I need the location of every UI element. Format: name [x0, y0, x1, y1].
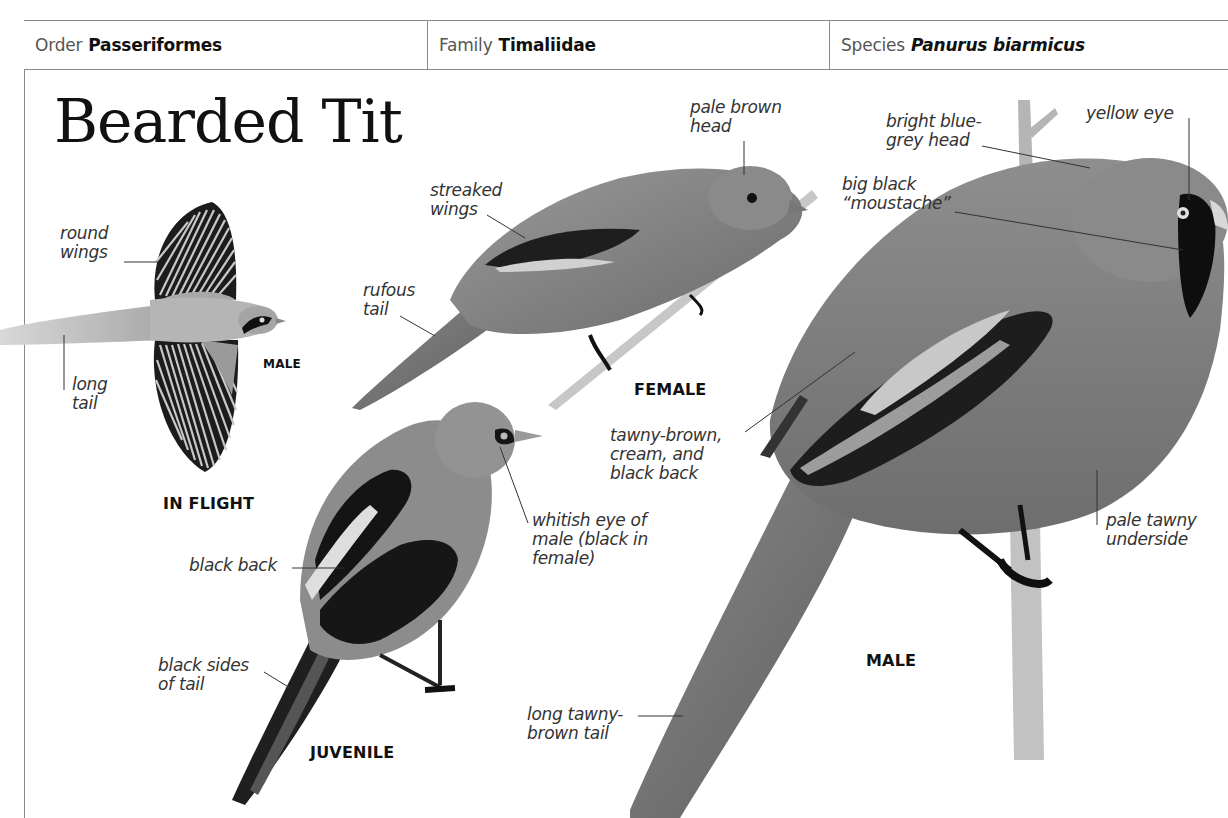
- bird-illustrations: [0, 0, 1228, 818]
- label-yellow-eye: yellow eye: [1086, 104, 1174, 123]
- black-sides-tail-leader: [264, 672, 290, 688]
- label-moustache: big black “moustache”: [842, 175, 951, 213]
- whitish-eye-leader: [500, 447, 528, 523]
- label-whitish-eye: whitish eye of male (black in female): [532, 511, 648, 568]
- label-long-tawny-brown-tail: long tawny- brown tail: [527, 705, 623, 743]
- label-streaked-wings: streaked wings: [430, 181, 502, 219]
- caption-in-flight-male: MALE: [263, 357, 301, 371]
- label-black-sides-of-tail: black sides of tail: [158, 656, 249, 694]
- rufous-tail-leader: [400, 316, 435, 336]
- label-pale-brown-head: pale brown head: [690, 98, 782, 136]
- in-flight-bird-figure: [0, 202, 286, 472]
- label-long-tail: long tail: [72, 375, 108, 413]
- label-rufous-tail: rufous tail: [363, 281, 415, 319]
- caption-in-flight: IN FLIGHT: [163, 494, 254, 513]
- female-bird-figure: [352, 166, 818, 410]
- label-back: tawny-brown, cream, and black back: [610, 426, 722, 483]
- caption-male: MALE: [866, 651, 916, 670]
- label-underside: pale tawny underside: [1106, 511, 1197, 549]
- caption-juvenile: JUVENILE: [310, 743, 394, 762]
- label-round-wings: round wings: [60, 224, 108, 262]
- label-blue-grey-head: bright blue- grey head: [886, 112, 981, 150]
- caption-female: FEMALE: [634, 380, 707, 399]
- label-black-back: black back: [189, 556, 277, 575]
